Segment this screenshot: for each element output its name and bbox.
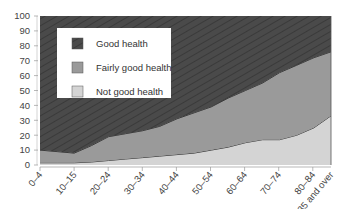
legend-swatch [72, 38, 83, 49]
y-tick-label: 0 [25, 159, 30, 170]
x-tick-label: 50–54 [190, 169, 215, 196]
y-tick-label: 80 [19, 40, 30, 51]
y-tick-label: 30 [19, 115, 30, 126]
y-tick-label: 40 [19, 100, 30, 111]
x-tick-label: 20–24 [87, 169, 112, 196]
legend-swatch [72, 86, 83, 97]
stacked-area-chart: 0102030405060708090100 0–410–1520–2430–3… [0, 0, 350, 209]
y-tick-label: 20 [19, 130, 30, 141]
x-axis: 0–410–1520–2430–3440–4450–5460–6470–7480… [26, 167, 336, 209]
legend-label: Fairly good health [96, 62, 172, 73]
legend-label: Good health [96, 38, 148, 49]
y-tick-label: 90 [19, 25, 30, 36]
y-tick-label: 10 [19, 144, 30, 155]
legend-swatch [72, 62, 83, 73]
y-tick-label: 50 [19, 85, 30, 96]
x-tick-label: 70–74 [258, 169, 283, 196]
x-tick-label: 0–4 [26, 169, 45, 188]
y-axis: 0102030405060708090100 [14, 10, 38, 170]
x-tick-label: 40–44 [156, 169, 181, 196]
x-tick-label: 30–34 [121, 169, 146, 196]
y-tick-label: 70 [19, 55, 30, 66]
x-tick-label: 10–15 [53, 169, 78, 196]
legend-label: Not good health [96, 86, 163, 97]
legend: Good healthFairly good healthNot good he… [57, 28, 172, 98]
y-tick-label: 100 [14, 10, 30, 21]
x-tick-label: 60–64 [224, 169, 249, 196]
y-tick-label: 60 [19, 70, 30, 81]
